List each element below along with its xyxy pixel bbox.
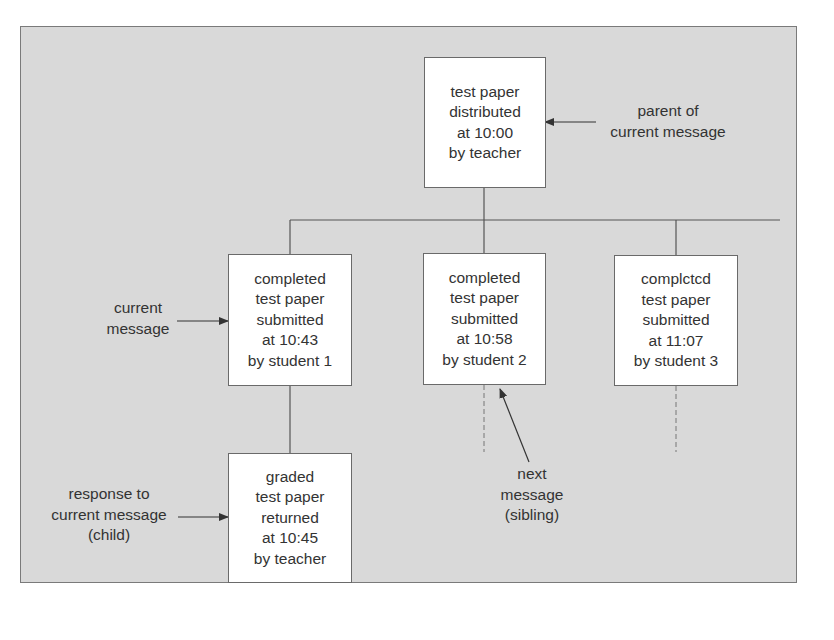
node-line: graded <box>266 467 314 488</box>
node-line: at 10:00 <box>457 123 513 144</box>
node-line: returned <box>261 508 319 529</box>
node-line: test paper <box>450 288 519 309</box>
annotation-parent: parent of current message <box>598 101 738 142</box>
node-line: submitted <box>451 309 518 330</box>
node-line: at 10:43 <box>262 330 318 351</box>
node-student2-message: completed test paper submitted at 10:58 … <box>423 253 546 385</box>
node-student1-message: completed test paper submitted at 10:43 … <box>228 254 352 386</box>
annotation-line: message <box>98 319 178 340</box>
node-line: at 10:58 <box>456 329 512 350</box>
node-line: completed <box>449 268 521 289</box>
node-line: by student 3 <box>634 351 718 372</box>
annotation-sibling: next message (sibling) <box>496 464 568 526</box>
annotation-line: current message <box>42 505 176 526</box>
node-line: at 10:45 <box>262 528 318 549</box>
annotation-line: message <box>496 485 568 506</box>
node-line: completed <box>254 269 326 290</box>
annotation-child: response to current message (child) <box>42 484 176 546</box>
annotation-line: parent of <box>598 101 738 122</box>
node-line: submitted <box>256 310 323 331</box>
node-line: test paper <box>642 290 711 311</box>
node-line: test paper <box>451 82 520 103</box>
annotation-line: current message <box>598 122 738 143</box>
annotation-line: current <box>98 298 178 319</box>
node-line: at 11:07 <box>649 331 704 352</box>
node-line: by teacher <box>254 549 326 570</box>
annotation-line: (sibling) <box>496 505 568 526</box>
node-line: by student 2 <box>442 350 526 371</box>
node-line: test paper <box>256 289 325 310</box>
annotation-line: response to <box>42 484 176 505</box>
annotation-line: (child) <box>42 525 176 546</box>
annotation-line: next <box>496 464 568 485</box>
node-line: test paper <box>256 487 325 508</box>
node-student3-message: complctcd test paper submitted at 11:07 … <box>614 255 738 386</box>
node-line: submitted <box>642 310 709 331</box>
node-line: distributed <box>449 102 521 123</box>
node-line: by teacher <box>449 143 521 164</box>
annotation-current: current message <box>98 298 178 339</box>
node-child-message: graded test paper returned at 10:45 by t… <box>228 453 352 583</box>
node-line: by student 1 <box>248 351 332 372</box>
node-parent-message: test paper distributed at 10:00 by teach… <box>424 57 546 188</box>
node-line: complctcd <box>641 269 711 290</box>
